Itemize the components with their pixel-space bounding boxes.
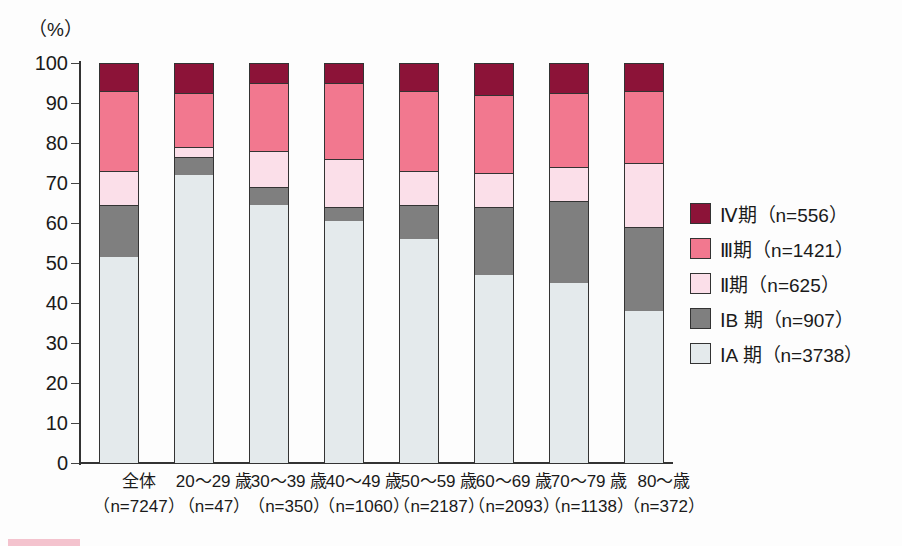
bar-segment[interactable] xyxy=(175,175,213,463)
y-tick-mark xyxy=(71,103,79,104)
x-axis-label-line1: 80〜歳 xyxy=(638,472,691,491)
legend-label: ⅠB 期（n=907） xyxy=(720,305,854,332)
stacked-bar[interactable] xyxy=(474,63,514,463)
bar-group[interactable] xyxy=(249,63,289,463)
bar-segment[interactable] xyxy=(325,221,363,463)
bar-segment[interactable] xyxy=(325,207,363,221)
bar-group[interactable] xyxy=(399,63,439,463)
legend-swatch-icon xyxy=(690,308,711,329)
bar-segment[interactable] xyxy=(325,159,363,207)
y-tick-label: 0 xyxy=(57,453,68,473)
bar-group[interactable] xyxy=(474,63,514,463)
bar-segment[interactable] xyxy=(250,205,288,463)
bar-segment[interactable] xyxy=(400,171,438,205)
y-tick-mark xyxy=(71,183,79,184)
legend-item-stage1b[interactable]: ⅠB 期（n=907） xyxy=(690,301,863,336)
y-tick-mark xyxy=(71,423,79,424)
bar-segment[interactable] xyxy=(100,171,138,205)
y-tick-label: 70 xyxy=(46,173,68,193)
legend-label: Ⅳ期（n=556） xyxy=(720,200,848,227)
legend-swatch-icon xyxy=(690,343,711,364)
bar-segment[interactable] xyxy=(400,205,438,239)
bar-segment[interactable] xyxy=(625,311,663,463)
stacked-bar[interactable] xyxy=(99,63,139,463)
legend: Ⅳ期（n=556）Ⅲ期（n=1421）Ⅱ期（n=625）ⅠB 期（n=907）Ⅰ… xyxy=(690,196,863,371)
bar-segment[interactable] xyxy=(400,239,438,463)
y-tick-mark xyxy=(71,223,79,224)
legend-item-stage4[interactable]: Ⅳ期（n=556） xyxy=(690,196,863,231)
bar-segment[interactable] xyxy=(100,205,138,257)
bar-segment[interactable] xyxy=(625,163,663,227)
bar-segment[interactable] xyxy=(250,63,288,83)
stacked-bar[interactable] xyxy=(399,63,439,463)
bar-segment[interactable] xyxy=(400,63,438,91)
bar-segment[interactable] xyxy=(550,201,588,283)
legend-swatch-icon xyxy=(690,203,711,224)
bar-segment[interactable] xyxy=(250,187,288,205)
stacked-bar[interactable] xyxy=(324,63,364,463)
legend-label: Ⅱ期（n=625） xyxy=(720,270,840,297)
y-tick-mark xyxy=(71,463,79,464)
bar-segment[interactable] xyxy=(325,83,363,159)
y-tick-label: 100 xyxy=(35,53,68,73)
y-tick-label: 10 xyxy=(46,413,68,433)
bar-segment[interactable] xyxy=(550,167,588,201)
bar-segment[interactable] xyxy=(175,93,213,147)
plot-area: 0102030405060708090100 xyxy=(79,63,671,463)
y-axis-unit-label: （%） xyxy=(28,14,83,41)
bar-segment[interactable] xyxy=(625,91,663,163)
y-tick-mark xyxy=(71,63,79,64)
y-tick-label: 60 xyxy=(46,213,68,233)
y-tick-label: 90 xyxy=(46,93,68,113)
bar-segment[interactable] xyxy=(325,63,363,83)
bar-segment[interactable] xyxy=(250,151,288,187)
stacked-bar[interactable] xyxy=(549,63,589,463)
bar-segment[interactable] xyxy=(175,147,213,157)
bar-segment[interactable] xyxy=(175,157,213,175)
bar-segment[interactable] xyxy=(100,257,138,463)
stacked-bar[interactable] xyxy=(624,63,664,463)
chart-root: （%） 0102030405060708090100 全体（n=7247）20〜… xyxy=(0,0,902,546)
bar-segment[interactable] xyxy=(400,91,438,171)
legend-swatch-icon xyxy=(690,238,711,259)
stacked-bar[interactable] xyxy=(249,63,289,463)
legend-label: Ⅲ期（n=1421） xyxy=(720,235,854,262)
y-tick-label: 50 xyxy=(46,253,68,273)
bar-group[interactable] xyxy=(324,63,364,463)
bar-segment[interactable] xyxy=(550,283,588,463)
scan-artifact xyxy=(8,539,80,546)
bar-segment[interactable] xyxy=(100,63,138,91)
bar-segment[interactable] xyxy=(475,275,513,463)
bar-segment[interactable] xyxy=(625,227,663,311)
y-tick-label: 80 xyxy=(46,133,68,153)
bar-group[interactable] xyxy=(99,63,139,463)
bar-group[interactable] xyxy=(174,63,214,463)
bar-segment[interactable] xyxy=(475,173,513,207)
bar-segment[interactable] xyxy=(550,93,588,167)
legend-item-stage3[interactable]: Ⅲ期（n=1421） xyxy=(690,231,863,266)
y-tick-label: 30 xyxy=(46,333,68,353)
bar-group[interactable] xyxy=(624,63,664,463)
y-tick-mark xyxy=(71,143,79,144)
y-tick-label: 20 xyxy=(46,373,68,393)
y-tick-mark xyxy=(71,343,79,344)
legend-swatch-icon xyxy=(690,273,711,294)
x-axis-label: 80〜歳（n=372） xyxy=(594,470,734,519)
legend-item-stage1a[interactable]: ⅠA 期（n=3738） xyxy=(690,336,863,371)
bar-segment[interactable] xyxy=(475,207,513,275)
bar-segment[interactable] xyxy=(100,91,138,171)
y-tick-mark xyxy=(71,383,79,384)
legend-item-stage2[interactable]: Ⅱ期（n=625） xyxy=(690,266,863,301)
bar-group[interactable] xyxy=(549,63,589,463)
y-tick-mark xyxy=(71,303,79,304)
bar-segment[interactable] xyxy=(250,83,288,151)
y-tick-mark xyxy=(71,263,79,264)
x-axis-label-line2: （n=372） xyxy=(594,495,734,520)
bar-segment[interactable] xyxy=(175,63,213,93)
bar-segment[interactable] xyxy=(475,95,513,173)
bar-segment[interactable] xyxy=(550,63,588,93)
bar-segment[interactable] xyxy=(475,63,513,95)
y-tick-label: 40 xyxy=(46,293,68,313)
bar-segment[interactable] xyxy=(625,63,663,91)
stacked-bar[interactable] xyxy=(174,63,214,463)
